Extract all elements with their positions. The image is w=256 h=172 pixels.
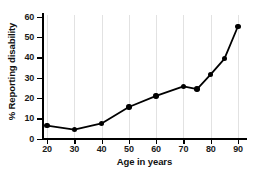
x-axis-title: Age in years <box>42 156 247 167</box>
data-series-line <box>0 0 256 172</box>
data-point-marker <box>235 24 240 29</box>
data-point-marker <box>126 104 131 109</box>
data-point-marker <box>153 93 158 98</box>
plot-area: 60 50 40 30 20 10 0 20 30 40 50 60 70 80… <box>0 0 256 172</box>
y-axis-title: % Reporting disability <box>6 7 17 137</box>
data-point-marker <box>194 86 199 91</box>
chart-figure: 60 50 40 30 20 10 0 20 30 40 50 60 70 80… <box>0 0 256 172</box>
